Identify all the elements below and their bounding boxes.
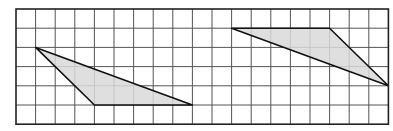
grid-diagram — [0, 0, 393, 131]
